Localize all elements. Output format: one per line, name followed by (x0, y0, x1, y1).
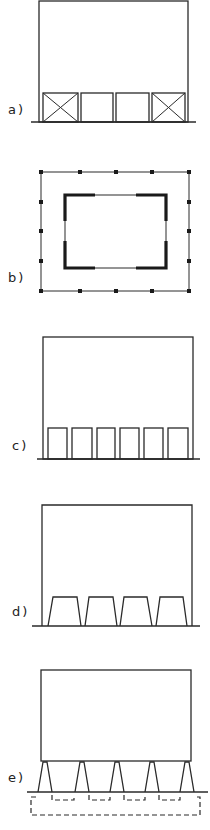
tapered-legs (38, 762, 194, 792)
raised-building (41, 670, 191, 761)
trapezoid-bay (156, 597, 187, 626)
panel-e-label: e) (8, 770, 25, 785)
building-outline (42, 505, 192, 626)
bay (97, 428, 115, 459)
inner-core (65, 195, 166, 268)
trapezoid-bay (48, 597, 81, 626)
bay (120, 428, 139, 459)
core-corner-walls (65, 195, 166, 268)
column-dots (39, 170, 191, 293)
panel-a: a) (8, 1, 196, 122)
building-outline (43, 337, 193, 459)
panel-c: c) (12, 337, 200, 459)
panel-b: b) (8, 170, 191, 293)
panel-c-label: c) (12, 438, 28, 453)
panel-b-label: b) (8, 270, 25, 285)
panel-d-label: d) (12, 604, 29, 619)
bay (144, 428, 163, 459)
panel-d: d) (12, 505, 200, 626)
panel-e: e) (8, 670, 208, 815)
bay (168, 428, 188, 459)
outer-frame (41, 172, 189, 291)
open-bay (116, 93, 149, 122)
bay (48, 428, 67, 459)
foundation-dashed-outlines (31, 795, 200, 815)
open-bay (81, 93, 113, 122)
trapezoid-bay (120, 597, 152, 626)
diagram-canvas: a) b) (0, 0, 210, 830)
bay (72, 428, 92, 459)
panel-a-label: a) (8, 102, 25, 117)
trapezoid-bay (85, 597, 117, 626)
